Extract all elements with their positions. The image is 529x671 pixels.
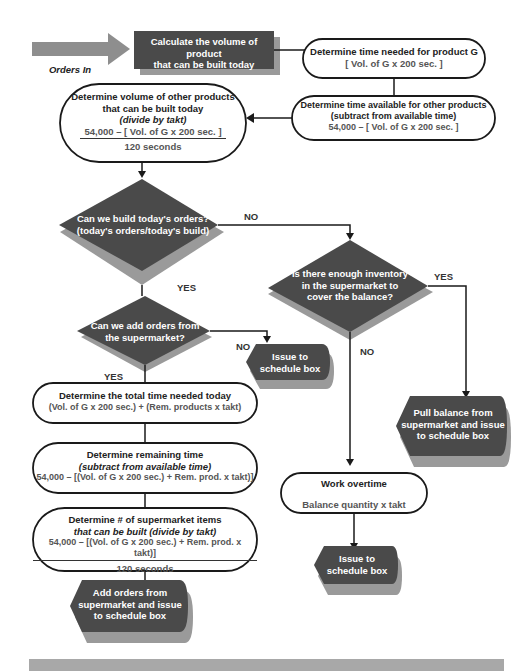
time-avail-line2: (subtract from available time) <box>292 111 495 122</box>
time-avail-line1: Determine time available for other produ… <box>292 100 495 111</box>
overtime-line1: Work overtime <box>281 478 427 490</box>
time-g-line2: [ Vol. of G x 200 sec. ] <box>303 58 485 70</box>
pull-balance-line2: supermarket and issue <box>398 419 508 431</box>
decision-build-line1: Can we build today's orders? <box>70 213 216 225</box>
decision-inventory-line3: cover the balance? <box>285 291 415 303</box>
time-avail-text: Determine time available for other produ… <box>292 100 495 133</box>
volume-other-line2: that can be built today <box>60 103 246 115</box>
add-orders-line1: Add orders from <box>72 587 188 599</box>
build-yes-label: YES <box>177 282 196 293</box>
volume-other-text: Determine volume of other products that … <box>60 91 246 153</box>
issue1-line2: schedule box <box>250 363 330 375</box>
inventory-no-label: NO <box>360 346 374 357</box>
decision-build-line2: (today's orders/today's build) <box>70 225 216 237</box>
supermarket-items-line2: that can be built (divide by takt) <box>33 526 257 538</box>
remaining-line1: Determine remaining time <box>33 449 257 461</box>
total-time-line2: (Vol. of G x 200 sec.) + (Rem. products … <box>33 402 257 413</box>
total-time-line1: Determine the total time needed today <box>33 390 257 402</box>
remaining-line2: (subtract from available time) <box>33 461 257 473</box>
inventory-yes-label: YES <box>434 271 453 282</box>
volume-other-line3: (divide by takt) <box>60 114 246 126</box>
decision-inventory-line1: Is there enough inventory <box>285 268 415 280</box>
volume-other-line1: Determine volume of other products <box>60 91 246 103</box>
issue2-line2: schedule box <box>316 565 398 577</box>
supermarket-items-denominator: 120 seconds <box>33 563 257 575</box>
remaining-text: Determine remaining time (subtract from … <box>33 449 257 483</box>
total-time-text: Determine the total time needed today (V… <box>33 390 257 413</box>
issue2-text: Issue to schedule box <box>316 553 398 576</box>
add-orders-text: Add orders from supermarket and issue to… <box>72 587 188 622</box>
overtime-line2: Balance quantity x takt <box>281 499 427 511</box>
orders-in-label: Orders In <box>40 64 100 76</box>
supermarket-items-text: Determine # of supermarket items that ca… <box>33 514 257 575</box>
supermarket-items-line1: Determine # of supermarket items <box>33 514 257 526</box>
time-avail-line3: 54,000 – [ Vol. of G x 200 sec. ] <box>292 122 495 133</box>
decision-add-text: Can we add orders from the supermarket? <box>85 320 205 343</box>
supermarket-items-numerator: 54,000 – [(Vol. of G x 200 sec.) + Rem. … <box>33 537 257 561</box>
volume-other-numerator: 54,000 – [ Vol. of G x 200 sec. ] <box>80 126 225 140</box>
pull-balance-text: Pull balance from supermarket and issue … <box>398 407 508 442</box>
add-yes-label: YES <box>104 371 123 382</box>
time-g-text: Determine time needed for product G [ Vo… <box>303 46 485 69</box>
issue2-line1: Issue to <box>316 553 398 565</box>
right-arrow-icon <box>32 33 130 65</box>
add-no-label: NO <box>236 341 250 352</box>
footer-bar <box>29 659 504 671</box>
remaining-line3: 54,000 – [(Vol. of G x 200 sec.) + Rem. … <box>33 472 257 483</box>
decision-build-text: Can we build today's orders? (today's or… <box>70 213 216 236</box>
decision-inventory-text: Is there enough inventory in the superma… <box>285 268 415 303</box>
build-no-label: NO <box>244 211 258 222</box>
calculate-text: Calculate the volume of product that can… <box>134 36 274 71</box>
calculate-line2: that can be built today <box>134 59 274 71</box>
add-orders-line3: to schedule box <box>72 610 188 622</box>
decision-add-line1: Can we add orders from <box>85 320 205 332</box>
decision-add-line2: the supermarket? <box>85 332 205 344</box>
volume-other-denominator: 120 seconds <box>60 141 246 153</box>
calculate-line1: Calculate the volume of product <box>134 36 274 59</box>
time-g-line1: Determine time needed for product G <box>303 46 485 58</box>
decision-inventory-line2: in the supermarket to <box>285 280 415 292</box>
overtime-text: Work overtime Balance quantity x takt <box>281 478 427 510</box>
pull-balance-line3: to schedule box <box>398 430 508 442</box>
issue1-line1: Issue to <box>250 351 330 363</box>
add-orders-line2: supermarket and issue <box>72 599 188 611</box>
pull-balance-line1: Pull balance from <box>398 407 508 419</box>
issue1-text: Issue to schedule box <box>250 351 330 374</box>
